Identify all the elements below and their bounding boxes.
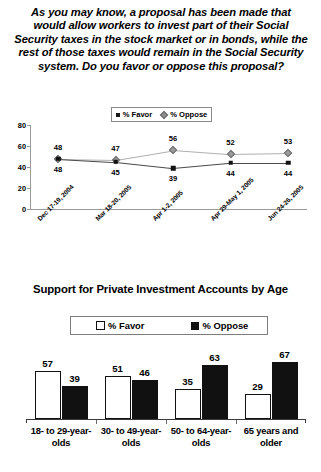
legend-item-favor: % Favor [116,110,153,119]
bar-value-label: 35 [182,376,193,387]
bar-category-label: 30- to 49-year-olds [96,425,166,448]
bar-chart-title: Support for Private Investment Accounts … [0,283,321,295]
line-segment [116,150,174,160]
bar-value-label: 29 [252,381,263,392]
bar-value-label: 46 [139,367,150,378]
diamond-marker-icon [160,110,168,118]
data-point-marker [113,160,118,165]
line-chart: % Favor % Oppose 80 60 40 20 0 484756525… [0,104,321,254]
legend-label-favor: % Favor [108,320,144,331]
bar-oppose [62,386,88,419]
bar-value-label: 57 [42,358,53,369]
bar-category-label: 18- to 29-year-olds [26,425,96,448]
line-segment [173,163,231,169]
data-point-marker [286,161,291,166]
bar-category-label: 65 years and older [236,425,306,448]
data-point-label: 52 [226,138,234,147]
x-axis-tick-mark [166,420,167,424]
baseline-end-cap [26,419,27,423]
line-chart-x-tick-labels: Dec 17-19, 2004Mar 18-20, 2005Apr 1-2, 2… [0,211,321,257]
bar-value-label: 51 [112,363,123,374]
bar-favor [175,389,201,419]
page-title: As you may know, a proposal has been mad… [14,6,308,73]
y-tick-label-40: 40 [2,163,26,172]
legend-label-favor: % Favor [123,110,153,119]
poll-results-figure: As you may know, a proposal has been mad… [0,0,321,472]
line-segment [115,162,173,169]
data-point-marker [169,146,177,154]
data-point-label: 39 [169,174,177,183]
legend-item-oppose: % Oppose [161,110,207,119]
x-axis-tick-mark [236,420,237,424]
y-tick-label-60: 60 [2,142,26,151]
bar-favor [35,371,61,419]
open-square-icon [96,321,105,330]
bar-chart: Support for Private Investment Accounts … [0,283,321,472]
bar-favor [245,394,271,419]
bar-value-label: 39 [69,373,80,384]
data-point-label: 53 [284,137,292,146]
bar-value-label: 63 [209,352,220,363]
y-tick-label-20: 20 [2,184,26,193]
data-point-label: 44 [284,169,292,178]
legend-item-favor: % Favor [96,320,144,331]
data-point-marker [226,150,234,158]
legend-label-oppose: % Oppose [202,320,248,331]
y-tick-mark [27,209,30,210]
data-point-marker [171,166,176,171]
data-point-label: 47 [111,144,119,153]
data-point-marker [284,149,292,157]
bar-favor [105,376,131,419]
data-point-label: 48 [54,143,62,152]
legend-item-oppose: % Oppose [191,320,248,331]
data-point-marker [228,161,233,166]
data-point-label: 45 [111,168,119,177]
line-segment [231,153,289,155]
x-axis-tick-mark [96,420,97,424]
filled-square-icon [191,322,199,330]
bar-chart-plot-area: 5739514635632967 [26,351,304,419]
data-point-label: 44 [226,169,234,178]
baseline-end-cap [305,419,306,423]
bar-oppose [202,365,228,419]
bar-chart-legend: % Favor % Oppose [70,316,268,335]
line-chart-plot-area: 48475652534845394444 [30,125,303,209]
data-point-label: 56 [169,134,177,143]
line-chart-legend: % Favor % Oppose [111,107,212,122]
y-tick-label-80: 80 [2,121,26,130]
legend-label-oppose: % Oppose [170,110,207,119]
bar-value-label: 67 [279,349,290,360]
data-point-marker [56,156,61,161]
line-segment [173,150,231,155]
data-point-label: 48 [54,165,62,174]
line-segment [231,163,289,164]
bar-oppose [272,362,298,419]
bar-category-label: 50- to 64-year-olds [166,425,236,448]
square-marker-icon [116,113,120,117]
bar-oppose [132,380,158,419]
